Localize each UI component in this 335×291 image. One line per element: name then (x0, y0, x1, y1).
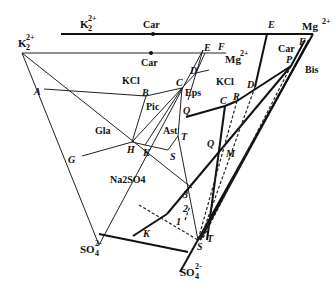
point-s-bottom: S (197, 241, 203, 252)
svg-text:2+: 2+ (240, 49, 249, 58)
svg-text:SO: SO (180, 266, 195, 278)
ion-k2-left: K 2 2+ (18, 33, 35, 52)
car-point-inner (149, 51, 153, 55)
svg-text:2: 2 (26, 43, 30, 52)
point-g: G (68, 154, 76, 165)
line-c-q-left (186, 106, 225, 117)
svg-text:2+: 2+ (26, 33, 35, 42)
ion-mg-top: Mg 2+ (302, 17, 331, 32)
mg-so4-edge (99, 50, 203, 245)
point-f-right: F (298, 36, 306, 47)
point-m: M (225, 148, 236, 159)
line-a-b (44, 89, 146, 96)
svg-text:2-: 2- (95, 239, 102, 248)
phase-diagram: K 2 2+ K 2 2+ Mg 2+ Mg 2+ SO 4 2- SO 4 2… (0, 0, 335, 291)
q-k-line (133, 214, 167, 236)
car-point-top (151, 32, 155, 36)
point-b: B (141, 87, 149, 98)
point-3: 3 (182, 189, 188, 200)
point-2: 2 (182, 203, 188, 214)
label-kcl-right: KCl (216, 76, 234, 87)
mg-s-inner (200, 40, 309, 240)
dash-p-s (202, 66, 291, 240)
point-1: 1 (176, 216, 181, 227)
k2-so4-edge (22, 53, 99, 245)
label-ast: Ast (163, 125, 178, 136)
point-t-bottom: T (207, 233, 214, 244)
point-r: R (232, 91, 240, 102)
line-d-f (196, 70, 209, 73)
point-k-bottom: K (142, 228, 151, 239)
label-kcl-left: KCl (122, 75, 140, 86)
line-c-k (145, 88, 182, 145)
label-gla: Gla (95, 125, 111, 136)
point-q-right: Q (207, 138, 214, 149)
point-f-left: F (217, 41, 225, 52)
label-car-right: Car (278, 43, 295, 54)
label-na2so4: Na2SO4 (110, 174, 146, 185)
point-e-right: E (267, 19, 275, 30)
point-c-right: C (220, 95, 227, 106)
line-e-d-right (255, 34, 267, 87)
label-car-top: Car (143, 19, 160, 30)
ion-so4-left: SO 4 2- (80, 239, 102, 258)
svg-text:SO: SO (80, 243, 95, 255)
point-d-left: D (189, 65, 197, 76)
svg-text:2+: 2+ (322, 17, 331, 26)
line-s-t (168, 136, 178, 150)
line-p-d-r-c (237, 66, 291, 101)
line-b-c (146, 88, 182, 96)
point-h: H (126, 144, 136, 155)
point-c-left: C (176, 77, 183, 88)
svg-text:Mg: Mg (302, 20, 318, 32)
k2-t-edge (22, 53, 192, 188)
point-k-left: K (142, 147, 151, 158)
point-q-left: Q (183, 105, 190, 116)
point-p: P (286, 54, 293, 65)
svg-text:Mg: Mg (225, 53, 241, 65)
svg-text:4: 4 (195, 272, 199, 281)
ion-mg-inner: Mg 2+ (225, 49, 249, 65)
label-car-inner: Car (141, 57, 158, 68)
point-t-left: T (181, 131, 188, 142)
svg-text:4: 4 (95, 249, 99, 258)
svg-text:2-: 2- (195, 262, 202, 271)
point-a: A (33, 86, 41, 97)
label-eps: Eps (185, 87, 201, 98)
label-bis: Bis (305, 64, 318, 75)
label-pic: Pic (146, 101, 160, 112)
point-s-left: S (170, 151, 176, 162)
svg-text:2: 2 (88, 24, 92, 33)
point-d-right: D (246, 79, 254, 90)
line-g-h (82, 142, 132, 156)
ion-k2-top: K 2 2+ (80, 14, 97, 33)
point-e-left: E (203, 42, 211, 53)
svg-text:2+: 2+ (88, 14, 97, 23)
